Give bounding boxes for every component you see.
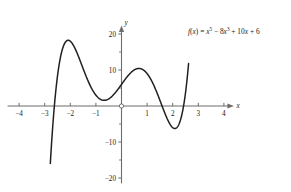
x-tick-label-4: 4 bbox=[222, 110, 226, 118]
x-tick-label--2: −2 bbox=[66, 110, 74, 118]
x-axis-label: x bbox=[235, 102, 240, 110]
tick-labels-group: xy−4−3−2−112342010−10−20 bbox=[15, 19, 240, 183]
equation-label: f(x) = x5 − 8x3 + 10x + 6 bbox=[188, 28, 260, 36]
origin-marker bbox=[119, 104, 123, 108]
x-tick-label--3: −3 bbox=[41, 110, 49, 118]
y-tick-label-10: 10 bbox=[109, 67, 117, 75]
equation-equals: = bbox=[198, 27, 206, 36]
equation-term2-operator: − bbox=[212, 27, 220, 36]
function-curve bbox=[50, 40, 188, 163]
x-tick-label--4: −4 bbox=[15, 110, 23, 118]
x-tick-label--1: −1 bbox=[92, 110, 100, 118]
equation-term3-coefficient: 10 bbox=[237, 27, 244, 36]
graph-figure: xy−4−3−2−112342010−10−20 f(x) = x5 − 8x3… bbox=[0, 0, 291, 192]
y-axis-label: y bbox=[124, 19, 129, 27]
equation-term4-operator: + bbox=[248, 27, 256, 36]
y-tick-label--10: −10 bbox=[105, 139, 117, 147]
y-tick-label-20: 20 bbox=[109, 31, 117, 39]
y-tick-label--20: −20 bbox=[105, 175, 117, 183]
x-tick-label-2: 2 bbox=[171, 110, 175, 118]
x-axis-arrowhead bbox=[227, 103, 234, 108]
equation-term4-constant: 6 bbox=[256, 27, 260, 36]
y-axis-arrowhead bbox=[119, 26, 124, 33]
x-tick-label-3: 3 bbox=[197, 110, 201, 118]
x-tick-label-1: 1 bbox=[145, 110, 149, 118]
